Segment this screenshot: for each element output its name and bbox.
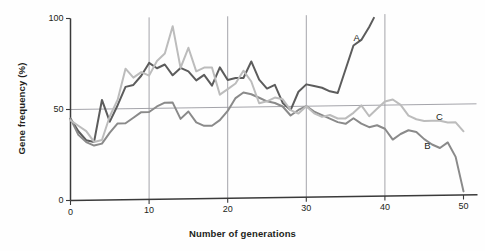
x-tick-label-30: 30 (292, 203, 320, 213)
chart-figure: Gene frequency (%) Number of generations… (0, 0, 485, 251)
y-tick-label-0: 0 (31, 195, 64, 205)
x-tick-label-40: 40 (371, 202, 399, 212)
series-label-b: B (424, 140, 430, 151)
y-tick-label-50: 50 (31, 104, 64, 114)
x-tick-label-0: 0 (57, 207, 85, 217)
y-tick-label-100: 100 (31, 13, 64, 23)
y-axis-title: Gene frequency (%) (16, 44, 27, 174)
x-tick-label-20: 20 (214, 204, 242, 214)
x-tick-label-50: 50 (450, 201, 478, 211)
series-label-c: C (436, 111, 443, 122)
x-tick-label-10: 10 (135, 205, 163, 215)
x-axis-title: Number of generations (0, 228, 485, 239)
series-label-a: A (353, 32, 359, 43)
